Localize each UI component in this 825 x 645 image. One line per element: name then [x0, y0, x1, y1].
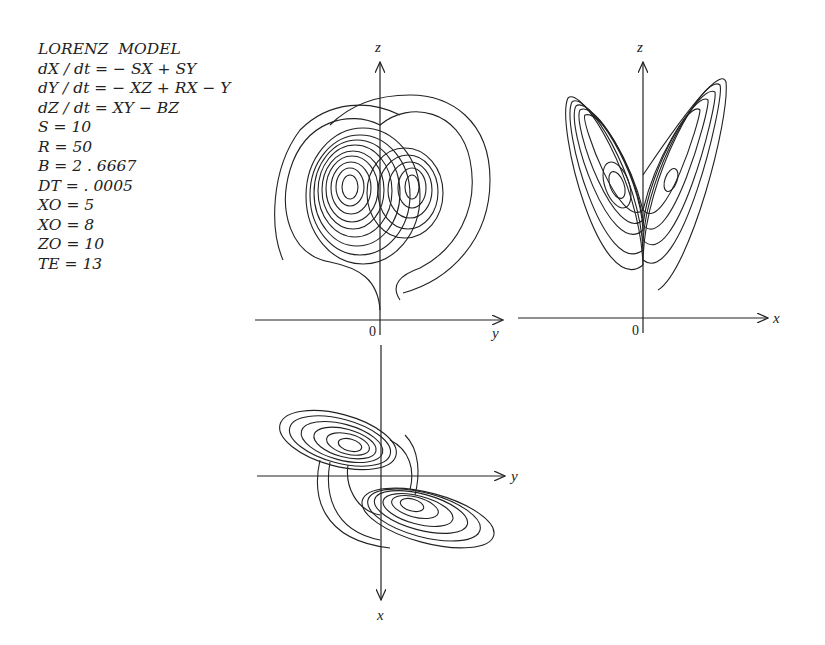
y-axis-label: y [490, 325, 499, 341]
plot-yz: z y 0 [255, 39, 503, 341]
trajectory-yz [275, 95, 490, 310]
trajectory-yx [273, 399, 500, 559]
plot-yx: y x [257, 345, 518, 623]
z-axis-label: z [374, 39, 381, 55]
y-axis-label: y [509, 468, 518, 484]
z-axis-label: z [636, 39, 643, 55]
plot-xz: z x 0 [518, 39, 780, 338]
trajectory-xz [566, 79, 727, 290]
attractor-plots: z y 0 z x 0 [0, 0, 825, 645]
origin-label: 0 [632, 323, 639, 338]
origin-label: 0 [369, 324, 376, 339]
x-axis-label: x [376, 607, 384, 623]
x-axis-label: x [772, 310, 780, 326]
